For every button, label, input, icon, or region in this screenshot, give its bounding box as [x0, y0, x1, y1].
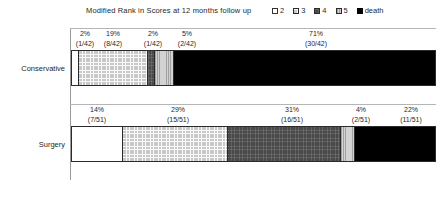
segment-label-surgery-4: 31% (16/51)	[264, 105, 320, 124]
bar-segment-surgery-5[interactable]	[341, 127, 356, 161]
segment-label-surgery-2: 14% (7/51)	[72, 105, 122, 124]
legend-item-5[interactable]: 5	[336, 6, 348, 15]
bar-segment-surgery-2[interactable]	[72, 127, 123, 161]
rank4-swatch-icon	[314, 8, 320, 14]
legend-label-5: 5	[344, 6, 348, 15]
category-axis-labels: Conservative Surgery	[0, 28, 65, 180]
bar-group-surgery: 14% (7/51) 29% (15/51) 31% (16/51) 4% (2…	[70, 104, 436, 180]
bar-segment-conservative-2[interactable]	[72, 51, 79, 85]
segment-labels-surgery: 14% (7/51) 29% (15/51) 31% (16/51) 4% (2…	[70, 105, 436, 127]
category-label-conservative: Conservative	[21, 64, 65, 74]
segment-label-conservative-death: 71% (30/42)	[266, 29, 366, 48]
segment-label-surgery-3: 29% (15/51)	[150, 105, 206, 124]
segment-label-conservative-5: 5% (2/42)	[166, 29, 208, 48]
bar-segment-conservative-death[interactable]	[174, 51, 435, 85]
segment-label-surgery-5: 4% (2/51)	[338, 105, 384, 124]
bar-group-conservative: 2% (1/42) 19% (8/42) 2% (1/42) 5% (2/42)…	[70, 28, 436, 104]
bar-conservative	[71, 50, 436, 86]
segment-label-conservative-3: 19% (8/42)	[88, 29, 138, 48]
category-label-surgery: Surgery	[39, 140, 65, 150]
rank2-swatch-icon	[272, 8, 278, 14]
stacked-bar-chart: Modified Rank in Scores at 12 months fol…	[0, 0, 447, 207]
bar-surgery	[71, 126, 436, 162]
death-swatch-icon	[357, 8, 363, 14]
chart-header: Modified Rank in Scores at 12 months fol…	[0, 6, 447, 20]
legend-item-3[interactable]: 3	[293, 6, 305, 15]
rank5-swatch-icon	[336, 8, 342, 14]
legend-label-4: 4	[322, 6, 326, 15]
bar-segment-conservative-5[interactable]	[155, 51, 173, 85]
legend-label-3: 3	[301, 6, 305, 15]
bar-segment-surgery-3[interactable]	[123, 127, 228, 161]
bar-segment-conservative-3[interactable]	[79, 51, 148, 85]
segment-labels-conservative: 2% (1/42) 19% (8/42) 2% (1/42) 5% (2/42)…	[70, 29, 436, 51]
bar-segment-conservative-4[interactable]	[148, 51, 155, 85]
legend-label-death: death	[365, 6, 384, 15]
rank3-swatch-icon	[293, 8, 299, 14]
segment-label-surgery-death: 22% (11/51)	[388, 105, 434, 124]
legend-item-2[interactable]: 2	[272, 6, 284, 15]
bar-segment-surgery-4[interactable]	[228, 127, 341, 161]
bar-segment-surgery-death[interactable]	[355, 127, 435, 161]
legend-item-death[interactable]: death	[357, 6, 384, 15]
legend: 2 3 4 5 death	[272, 6, 383, 16]
legend-label-2: 2	[280, 6, 284, 15]
chart-title: Modified Rank in Scores at 12 months fol…	[86, 6, 251, 16]
legend-item-4[interactable]: 4	[314, 6, 326, 15]
plot-area: 2% (1/42) 19% (8/42) 2% (1/42) 5% (2/42)…	[70, 28, 436, 180]
